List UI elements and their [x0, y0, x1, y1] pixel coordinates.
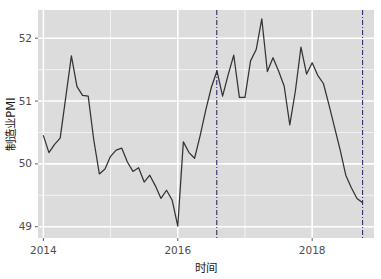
pmi-line-chart: 49505152 201420162018 制造业PMI 时间 [0, 0, 381, 279]
y-tick-label: 52 [19, 32, 32, 44]
x-tick-label: 2016 [164, 244, 191, 256]
x-tick-label: 2018 [299, 244, 326, 256]
x-tick-label: 2014 [30, 244, 57, 256]
x-axis-title: 时间 [195, 261, 217, 275]
y-axis-title: 制造业PMI [4, 97, 18, 150]
y-tick-label: 50 [19, 157, 32, 169]
y-axis-ticks: 49505152 [19, 32, 38, 232]
x-axis-ticks: 201420162018 [30, 238, 326, 256]
y-tick-label: 51 [19, 95, 32, 107]
plot-panel-background [38, 10, 374, 238]
chart-container: 49505152 201420162018 制造业PMI 时间 [0, 0, 381, 279]
y-tick-label: 49 [19, 220, 32, 232]
